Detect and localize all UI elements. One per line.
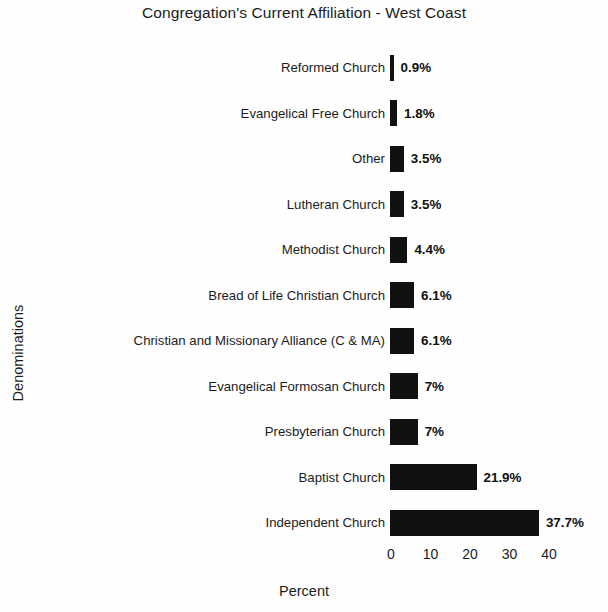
bar-and-value: 21.9% [390,455,521,501]
bar [390,464,477,490]
bar [390,55,394,81]
category-label: Methodist Church [282,227,385,273]
category-label: Baptist Church [299,455,386,501]
category-label: Evangelical Free Church [241,91,385,137]
x-axis-title: Percent [0,583,608,599]
x-axis-tick: 20 [462,546,478,562]
bar-row: Christian and Missionary Alliance (C & M… [0,318,608,364]
bar-value-label: 4.4% [414,243,445,256]
bar-and-value: 3.5% [390,136,441,182]
bar [390,328,414,354]
x-axis-tick-labels: 010203040 [0,546,608,568]
bar-value-label: 7% [425,425,444,438]
x-axis-title-text: Percent [279,583,329,599]
bar-value-label: 21.9% [484,471,522,484]
bar-and-value: 37.7% [390,500,584,546]
bar-row: Lutheran Church3.5% [0,182,608,228]
bar-and-value: 6.1% [390,318,452,364]
bar-row: Independent Church37.7% [0,500,608,546]
x-axis-tick: 10 [423,546,439,562]
bar-and-value: 3.5% [390,182,441,228]
y-axis-title: Denominations [10,273,26,433]
bar-value-label: 3.5% [411,152,442,165]
category-label: Presbyterian Church [265,409,385,455]
bar-row: Presbyterian Church7% [0,409,608,455]
bar [390,237,407,263]
bar [390,510,539,536]
bar-row: Other3.5% [0,136,608,182]
category-label: Independent Church [265,500,385,546]
bar [390,419,418,445]
bar [390,146,404,172]
bar-value-label: 37.7% [546,516,584,529]
bar-and-value: 0.9% [390,45,431,91]
category-label: Lutheran Church [287,182,385,228]
bar-and-value: 7% [390,364,444,410]
bar-row: Evangelical Free Church1.8% [0,91,608,137]
bar-chart: Congregation's Current Affiliation - Wes… [0,0,608,612]
bar-and-value: 7% [390,409,444,455]
bar [390,282,414,308]
bar-value-label: 7% [425,380,444,393]
bar [390,373,418,399]
x-axis-tick: 0 [387,546,395,562]
bar-row: Methodist Church4.4% [0,227,608,273]
bar-row: Reformed Church0.9% [0,45,608,91]
bar-row: Bread of Life Christian Church6.1% [0,273,608,319]
bar-and-value: 4.4% [390,227,445,273]
bar-value-label: 1.8% [404,107,435,120]
bar-value-label: 3.5% [411,198,442,211]
x-axis-tick: 40 [541,546,557,562]
bar-value-label: 6.1% [421,289,452,302]
bar-and-value: 1.8% [390,91,435,137]
category-label: Christian and Missionary Alliance (C & M… [134,318,385,364]
bar-row: Baptist Church21.9% [0,455,608,501]
category-label: Other [352,136,385,182]
category-label: Reformed Church [281,45,385,91]
category-label: Bread of Life Christian Church [208,273,385,319]
bar [390,100,397,126]
category-label: Evangelical Formosan Church [208,364,385,410]
bar-value-label: 0.9% [401,61,432,74]
bar-and-value: 6.1% [390,273,452,319]
bar-value-label: 6.1% [421,334,452,347]
bar-row: Evangelical Formosan Church7% [0,364,608,410]
plot-area: Reformed Church0.9%Evangelical Free Chur… [0,0,608,612]
x-axis-tick: 30 [502,546,518,562]
bar [390,191,404,217]
